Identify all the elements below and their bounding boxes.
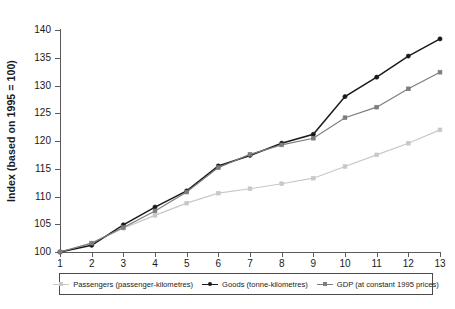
data-point [406,141,410,145]
line-chart: Index (based on 1995 = 100) 100105110115… [0,0,455,309]
legend-swatch-icon [202,280,218,288]
legend-label: Goods (tonne-kilometres) [222,280,308,289]
legend-swatch-icon [317,280,333,288]
series-layer [0,0,455,309]
data-point [343,165,347,169]
data-point [153,205,157,209]
data-point [343,95,347,99]
data-point [438,70,442,74]
series-line [60,130,440,252]
series-line [60,72,440,252]
data-point [90,241,94,245]
data-point [58,250,62,254]
data-point [343,116,347,120]
series-0 [58,128,442,254]
data-point [153,209,157,213]
data-point [311,136,315,140]
data-point [280,143,284,147]
data-point [248,187,252,191]
data-point [438,37,442,41]
legend-label: Passengers (passenger-kilometres) [73,280,193,289]
data-point [375,153,379,157]
data-point [153,213,157,217]
data-point [311,176,315,180]
series-2 [58,70,442,254]
data-point [375,75,379,79]
legend-item: GDP (at constant 1995 prices) [317,280,439,289]
series-line [60,39,440,252]
data-point [311,132,315,136]
data-point [280,182,284,186]
legend-swatch-icon [53,280,69,288]
series-1 [58,37,442,254]
legend-label: GDP (at constant 1995 prices) [337,280,439,289]
data-point [406,54,410,58]
legend-item: Goods (tonne-kilometres) [202,280,308,289]
data-point [375,105,379,109]
data-point [121,226,125,230]
data-point [216,166,220,170]
data-point [185,190,189,194]
data-point [248,152,252,156]
legend-item: Passengers (passenger-kilometres) [53,280,193,289]
data-point [406,87,410,91]
data-point [438,128,442,132]
chart-legend: Passengers (passenger-kilometres)Goods (… [59,273,433,295]
data-point [216,191,220,195]
data-point [185,201,189,205]
